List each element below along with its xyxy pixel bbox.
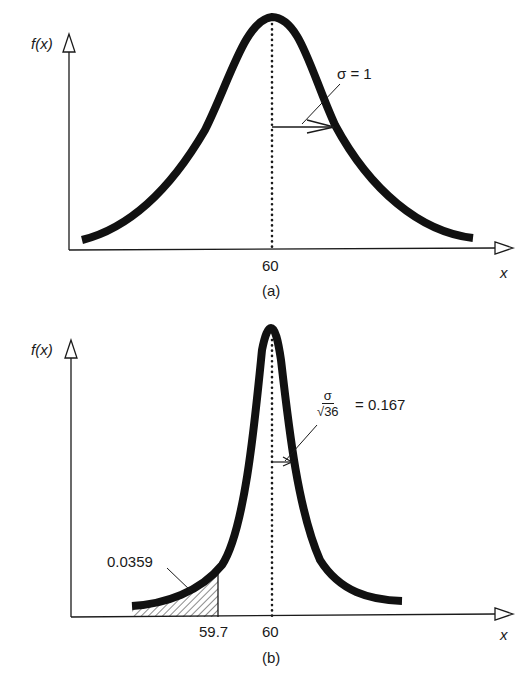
y-axis-label-a: f(x)	[31, 36, 53, 51]
x-axis-arrow-a-icon	[495, 242, 513, 254]
y-axis-label-a-text: f(x)	[31, 35, 53, 52]
x-axis-arrow-b-icon	[495, 608, 513, 620]
sigma-denominator: √36	[317, 404, 339, 418]
sigma-fraction-b: σ √36	[317, 389, 339, 418]
area-label-b: 0.0359	[107, 554, 153, 569]
tick-cutoff-b: 59.7	[199, 624, 228, 639]
figure-canvas	[0, 0, 532, 684]
sigma-label-a: σ = 1	[337, 66, 372, 81]
x-axis-label-a: x	[500, 265, 508, 280]
caption-a: (a)	[262, 283, 280, 298]
sigma-numerator: σ	[322, 389, 334, 404]
normal-curve-b	[132, 328, 402, 606]
panel-b	[65, 328, 513, 620]
y-axis-arrow-b-icon	[65, 340, 77, 358]
tick-mean-a: 60	[262, 258, 279, 273]
y-axis-arrow-a-icon	[63, 34, 75, 52]
x-axis-a	[69, 248, 495, 250]
normal-curve-a	[82, 17, 473, 240]
caption-b: (b)	[262, 650, 280, 665]
y-axis-label-b: f(x)	[31, 342, 53, 357]
sigma-value-b: = 0.167	[355, 397, 405, 412]
tick-mean-b: 60	[262, 624, 279, 639]
panel-a	[63, 17, 513, 254]
area-leader-b	[167, 568, 192, 592]
y-axis-label-b-text: f(x)	[31, 341, 53, 358]
x-axis-label-b: x	[500, 627, 508, 642]
